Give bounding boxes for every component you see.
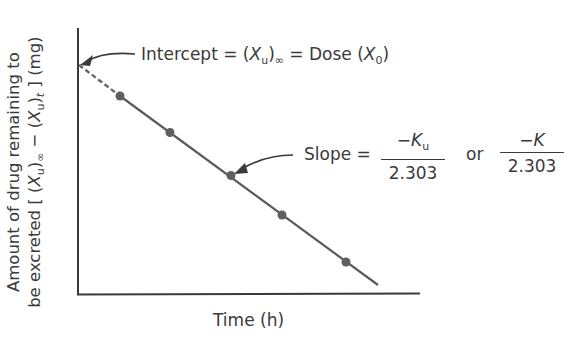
x-axis-label: Time (h) [213, 310, 284, 330]
y-axis-label-line2: be excreted [ (Xu)∞ − (Xu)t ] (mg) [24, 27, 51, 317]
slope-arrow [240, 155, 293, 170]
slope-label: Slope = [304, 144, 371, 164]
slope-numerator-k: −K [500, 128, 564, 153]
slope-denominator: 2.303 [381, 160, 445, 186]
y-axis-label-line1: Amount of drug remaining to [3, 27, 24, 317]
extrapolated-line [79, 65, 120, 96]
y-axis-label: Amount of drug remaining to be excreted … [3, 27, 51, 317]
data-point [166, 128, 175, 137]
intercept-arrow [86, 53, 135, 62]
slope-fraction-ku: −Ku 2.303 [381, 128, 445, 186]
intercept-arrowhead [80, 55, 93, 66]
data-point [116, 92, 125, 101]
intercept-annotation: Intercept = (Xu)∞ = Dose (X0) [141, 44, 389, 67]
slope-fraction-k: −K 2.303 [500, 128, 564, 179]
slope-numerator-ku: −Ku [381, 128, 445, 160]
or-text: or [466, 144, 483, 164]
slope-arrowhead [234, 163, 248, 174]
x-axis [77, 294, 420, 295]
slope-denominator: 2.303 [500, 153, 564, 179]
data-point [227, 171, 236, 180]
data-point [342, 258, 351, 267]
regression-line [120, 96, 378, 285]
data-point [278, 211, 287, 220]
